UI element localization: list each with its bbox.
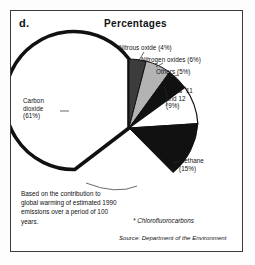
label-co2-line3: (61%): [23, 112, 44, 120]
label-methane-line1: Methane: [179, 157, 204, 165]
label-methane: Methane (15%): [179, 157, 204, 172]
label-cfcs: CFCs* 11 and 12 (9%): [166, 85, 193, 110]
label-methane-line2: (15%): [179, 165, 204, 173]
chart-note: Based on the contribution to global warm…: [21, 189, 117, 226]
label-carbon-dioxide: Carbon dioxide (61%): [23, 97, 44, 120]
label-co2-line1: Carbon: [23, 97, 44, 105]
chart-panel: d. Percentages: [10, 10, 243, 252]
label-cfcs-line1: CFCs* 11: [166, 85, 193, 95]
label-cfcs-num: 11: [184, 87, 192, 94]
label-cfcs-text: CFCs: [166, 87, 182, 94]
label-others: Others (5%): [156, 68, 191, 76]
label-cfcs-line3: (9%): [166, 102, 193, 110]
label-co2-line2: dioxide: [23, 105, 44, 113]
label-nitrogen-oxides: Nitrogen oxides (6%): [141, 56, 201, 64]
chart-source: Source: Department of the Environment: [119, 234, 226, 241]
label-cfcs-line2: and 12: [166, 95, 193, 103]
label-nitrous-oxide: Nitrous oxide (4%): [119, 44, 172, 52]
chart-footnote: * Chlorofluorocarbons: [133, 217, 194, 224]
